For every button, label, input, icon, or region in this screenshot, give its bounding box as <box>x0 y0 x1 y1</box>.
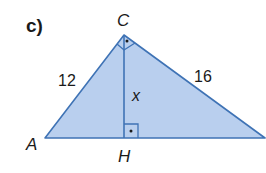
vertex-label-h: H <box>118 147 131 166</box>
side-label-ch: x <box>131 87 141 104</box>
side-label-bc: 16 <box>194 68 212 85</box>
triangle-diagram: c) C A H 12 16 x <box>0 0 266 173</box>
vertex-label-a: A <box>25 135 37 154</box>
part-label: c) <box>26 15 43 36</box>
vertex-label-c: C <box>117 11 130 30</box>
side-label-ac: 12 <box>58 72 76 89</box>
triangle-abc <box>45 35 265 138</box>
